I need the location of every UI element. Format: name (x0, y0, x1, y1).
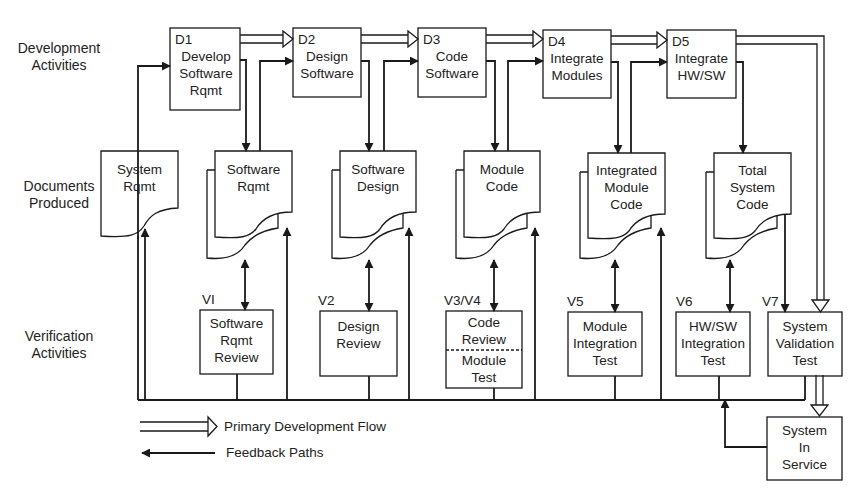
doc-integrated-module-code-label: Integrated Module Code (588, 162, 665, 213)
feedback-paths (138, 60, 805, 447)
d5-label: Integrate HW/SW (667, 50, 736, 84)
doc-module-code-label: Module Code (464, 161, 540, 195)
v2-id: V2 (318, 292, 335, 309)
d5-id: D5 (672, 33, 689, 50)
d2-id: D2 (298, 31, 315, 48)
v5-label: Module Integration Test (568, 318, 642, 369)
v6-label: HW/SW Integration Test (676, 318, 750, 369)
v2-label: Design Review (320, 318, 397, 352)
d1-id: D1 (175, 31, 192, 48)
d3-id: D3 (423, 31, 440, 48)
row-label-development: Development Activities (14, 40, 104, 74)
d3-label: Code Software (418, 48, 486, 82)
v7-label: System Validation Test (768, 318, 842, 369)
d1-label: Develop Software Rqmt (170, 48, 242, 99)
doc-total-system-code-label: Total System Code (714, 162, 791, 213)
legend-feedback-label: Feedback Paths (226, 445, 324, 461)
v1-id: VI (202, 291, 215, 308)
v6-id: V6 (676, 293, 693, 310)
v34-label-lower: Module Test (446, 352, 522, 386)
row-label-documents: Documents Produced (14, 178, 104, 212)
system-in-service-label: System In Service (767, 422, 842, 473)
d2-label: Design Software (293, 48, 361, 82)
row-label-verification: Verification Activities (14, 328, 104, 362)
v34-id: V3/V4 (444, 292, 481, 309)
v7-id: V7 (762, 293, 779, 310)
v1-label: Software Rqmt Review (200, 315, 273, 366)
d4-id: D4 (548, 33, 565, 50)
v34-label-upper: Code Review (446, 314, 522, 348)
doc-software-rqmt-label: Software Rqmt (215, 161, 292, 195)
doc-software-design-label: Software Design (340, 161, 416, 195)
legend-primary-flow-label: Primary Development Flow (224, 419, 386, 435)
legend-primary-flow-arrow (140, 417, 217, 436)
doc-system-rqmt-label: System Rqmt (101, 161, 178, 195)
d4-label: Integrate Modules (543, 50, 611, 84)
v5-id: V5 (567, 293, 584, 310)
